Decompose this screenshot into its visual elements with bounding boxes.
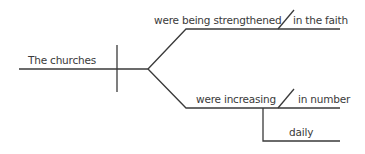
lower-verb-label: were increasing [196, 93, 276, 105]
adverb-label: daily [289, 126, 313, 138]
subject-label: The churches [28, 54, 96, 66]
sentence-diagram: The churches were being strengthened in … [0, 0, 365, 154]
upper-predicate-line [148, 29, 340, 69]
lower-modifier-label: in number [298, 93, 350, 105]
lower-modifier-slash [278, 89, 294, 108]
upper-verb-label: were being strengthened [154, 14, 282, 26]
upper-modifier-label: in the faith [293, 14, 348, 26]
